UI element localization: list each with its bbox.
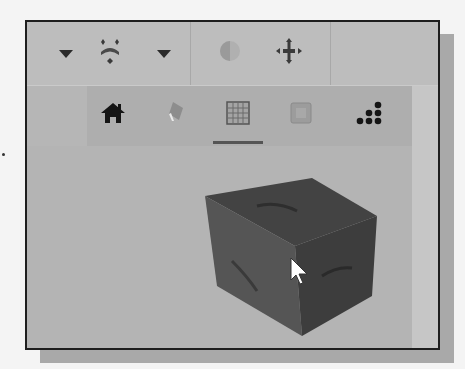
viewport-right-edge xyxy=(412,86,438,348)
shading-half-moon-icon xyxy=(217,38,243,68)
pan-button[interactable] xyxy=(272,36,306,70)
viewport-area-left xyxy=(27,86,87,146)
toolbar-separator xyxy=(190,22,191,85)
zoom-fit-icon xyxy=(95,36,125,70)
application-window xyxy=(25,20,440,350)
zoom-fit-button[interactable] xyxy=(93,36,127,70)
home-icon xyxy=(100,101,126,129)
square-view-icon xyxy=(288,100,314,130)
eraser-icon xyxy=(163,100,187,130)
eraser-button[interactable] xyxy=(157,98,193,132)
view-cube[interactable] xyxy=(197,176,377,336)
pan-move-icon xyxy=(274,36,304,70)
grid-button[interactable] xyxy=(220,98,256,132)
dropdown-button-2[interactable] xyxy=(147,36,181,70)
dropdown-arrow-icon xyxy=(156,44,172,63)
callout-marker-dot xyxy=(2,153,5,156)
toolbar-navigation xyxy=(87,86,412,146)
3d-viewport[interactable] xyxy=(27,146,412,348)
dot-triangle-icon xyxy=(356,99,384,131)
dot-triangle-button[interactable] xyxy=(352,98,388,132)
dropdown-arrow-icon xyxy=(58,44,74,63)
selected-tab-indicator xyxy=(213,141,263,144)
square-view-button[interactable] xyxy=(283,98,319,132)
home-button[interactable] xyxy=(95,98,131,132)
toolbar-separator xyxy=(330,22,331,85)
shading-button[interactable] xyxy=(213,36,247,70)
grid-icon xyxy=(225,100,251,130)
mouse-pointer-icon xyxy=(289,256,311,286)
dropdown-button-1[interactable] xyxy=(49,36,83,70)
toolbar-top xyxy=(27,22,438,86)
